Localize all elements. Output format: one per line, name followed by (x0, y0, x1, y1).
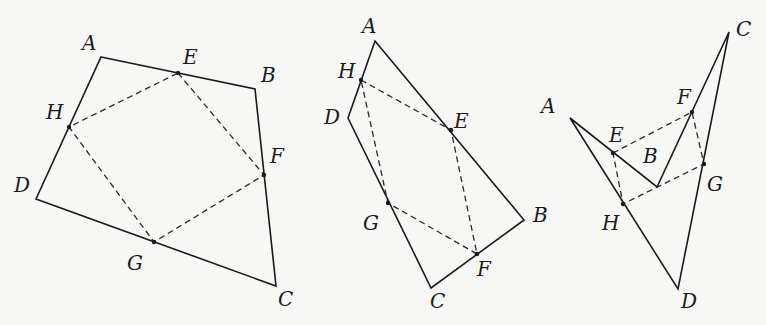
label-c: C (278, 287, 293, 311)
label-g: G (707, 172, 723, 196)
label-b: B (642, 144, 658, 168)
label-d: D (13, 173, 30, 197)
label-a: A (80, 31, 96, 55)
label-d: D (323, 105, 340, 129)
figure-1-convex-quadrilateral: A E B H F D G C (13, 31, 293, 311)
geometry-diagram: A E B H F D G C A H D E G B F C (0, 0, 766, 325)
quadrilateral-abcd (348, 41, 524, 288)
label-f: F (476, 257, 492, 281)
label-g: G (127, 251, 143, 275)
point-f (690, 110, 694, 114)
label-f: F (676, 85, 692, 109)
label-b: B (532, 203, 548, 227)
label-e: E (608, 123, 624, 147)
point-f (262, 173, 266, 177)
point-h (67, 125, 71, 129)
point-e (611, 151, 615, 155)
quadrilateral-abcd (36, 57, 276, 286)
point-f (475, 252, 479, 256)
midpoint-dots (67, 71, 266, 244)
label-d: D (680, 289, 697, 313)
label-c: C (736, 17, 751, 41)
point-g (702, 162, 706, 166)
midpoint-dots (611, 110, 706, 206)
point-g (386, 201, 390, 205)
label-e: E (182, 45, 198, 69)
label-f: F (269, 144, 285, 168)
label-g: G (363, 211, 379, 235)
point-h (359, 78, 363, 82)
label-e: E (453, 109, 469, 133)
point-e (449, 128, 453, 132)
midpoint-quadrilateral-efgh (69, 73, 264, 242)
label-a: A (539, 94, 555, 118)
label-b: B (260, 63, 276, 87)
point-e (176, 71, 180, 75)
point-h (621, 202, 625, 206)
label-h: H (601, 211, 620, 235)
label-h: H (45, 100, 64, 124)
point-g (152, 240, 156, 244)
figure-3-concave-quadrilateral: A E B F C G H D (539, 17, 751, 313)
label-c: C (430, 289, 445, 313)
figure-2-self-intersecting-quadrilateral: A H D E G B F C (323, 14, 548, 313)
midpoint-quadrilateral-efgh (613, 112, 704, 204)
label-h: H (337, 59, 356, 83)
label-a: A (360, 14, 376, 38)
